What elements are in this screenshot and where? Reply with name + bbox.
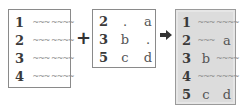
result-table: 1~~~~~~~ 2~~~a 3b~~~~ 4~~~~~~~ 5cd [175, 9, 236, 105]
cell: ~~~~ [51, 54, 73, 63]
cell: ~~~ [196, 36, 216, 45]
cell: ~~~~ [216, 18, 238, 27]
table-row: 4~~~~~~~ [9, 67, 70, 85]
row-key: 5 [182, 87, 191, 102]
cell: c [196, 87, 216, 102]
cell: ~~~ [31, 72, 51, 81]
cell: ~~~~ [216, 54, 238, 63]
cell: ~~~ [31, 54, 51, 63]
table-row: 2~~~a [176, 31, 235, 49]
left-table: 1~~~~~~~ 2~~~~~~~ 3~~~~~~~ 4~~~~~~~ [8, 9, 71, 88]
table-row: 3~~~~~~~ [9, 49, 70, 67]
cell: ~~~ [31, 18, 51, 27]
cell: b [196, 51, 216, 66]
table-row: 5cd [176, 85, 235, 103]
row-key: 2 [182, 33, 191, 48]
table-row: 1~~~~~~~ [176, 13, 235, 31]
cell: ~~~~ [51, 36, 73, 45]
table-row: 1~~~~~~~ [9, 13, 70, 31]
row-key: 3 [15, 51, 24, 66]
arrow-right-icon [160, 30, 172, 40]
cell: c [115, 50, 135, 65]
row-key: 2 [99, 14, 108, 29]
plus-operator: + [76, 27, 91, 48]
cell: ~~~ [196, 72, 216, 81]
middle-table: 2.a 3b. 5cd [92, 9, 156, 68]
cell: . [137, 32, 159, 47]
cell: d [137, 50, 159, 65]
row-key: 4 [15, 69, 24, 84]
cell: ~~~ [31, 36, 51, 45]
row-key: 1 [15, 15, 24, 30]
row-key: 3 [182, 51, 191, 66]
row-key: 3 [99, 32, 108, 47]
row-key: 1 [182, 15, 191, 30]
cell: b [115, 32, 135, 47]
cell: a [137, 14, 159, 29]
cell: ~~~~ [216, 72, 238, 81]
table-row: 5cd [93, 48, 155, 66]
table-row: 4~~~~~~~ [176, 67, 235, 85]
row-key: 2 [15, 33, 24, 48]
row-key: 5 [99, 50, 108, 65]
cell: . [115, 14, 135, 29]
cell: a [216, 33, 238, 48]
table-row: 3b. [93, 30, 155, 48]
cell: d [216, 87, 238, 102]
row-key: 4 [182, 69, 191, 84]
cell: ~~~~ [51, 72, 73, 81]
table-row: 2.a [93, 12, 155, 30]
cell: ~~~ [196, 18, 216, 27]
table-row: 3b~~~~ [176, 49, 235, 67]
table-row: 2~~~~~~~ [9, 31, 70, 49]
cell: ~~~~ [51, 18, 73, 27]
